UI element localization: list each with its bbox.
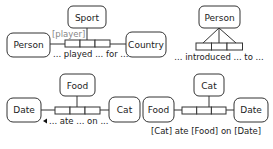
entity-date[interactable]: Date: [234, 98, 268, 122]
entity-cat-label: Cat: [117, 105, 133, 115]
entity-cat[interactable]: Cat: [194, 74, 224, 96]
entity-food-label: Food: [148, 105, 170, 115]
fact-reading: ... ate ... on ...: [49, 116, 108, 126]
entity-country[interactable]: Country: [126, 32, 166, 57]
fact-type-roles[interactable]: [182, 107, 226, 114]
diagram-ate-on: Food Date Cat ... ate ... on ...: [7, 74, 140, 126]
fact-type-roles[interactable]: [55, 107, 100, 114]
reverse-reading-arrow-icon: [43, 119, 47, 124]
diagram-cat-ate-food-on-date: Cat Food Date [Cat] ate [Food] on [Date]: [143, 74, 268, 136]
entity-food-label: Food: [67, 81, 89, 91]
entity-sport-label: Sport: [75, 13, 100, 23]
diagram-introduced-to: Person ... introduced ... to ...: [174, 6, 263, 62]
entity-person[interactable]: Person: [7, 33, 50, 57]
entity-food[interactable]: Food: [143, 97, 174, 122]
entity-sport[interactable]: Sport: [68, 6, 106, 28]
entity-date-label: Date: [240, 105, 262, 115]
fact-reading: ... played ... for ...: [53, 49, 128, 59]
connector-role3: [219, 28, 236, 43]
entity-country-label: Country: [128, 40, 164, 50]
fact-reading: [Cat] ate [Food] on [Date]: [151, 126, 261, 136]
entity-person-top-label: Person: [204, 13, 234, 23]
entity-food[interactable]: Food: [60, 74, 95, 96]
fact-type-roles[interactable]: [196, 43, 243, 50]
entity-date-label: Date: [13, 105, 35, 115]
fact-type-roles[interactable]: [65, 40, 110, 47]
diagram-played-for: Sport Person Country [player] ... played…: [7, 6, 166, 59]
connector-role1: [203, 28, 219, 43]
role-name-label: [player]: [52, 29, 85, 39]
entity-person-label: Person: [13, 40, 43, 50]
entity-cat[interactable]: Cat: [109, 97, 140, 122]
entity-person-top[interactable]: Person: [199, 6, 240, 28]
fact-reading: ... introduced ... to ...: [174, 52, 263, 62]
entity-date[interactable]: Date: [7, 98, 41, 122]
entity-cat-label: Cat: [201, 81, 217, 91]
